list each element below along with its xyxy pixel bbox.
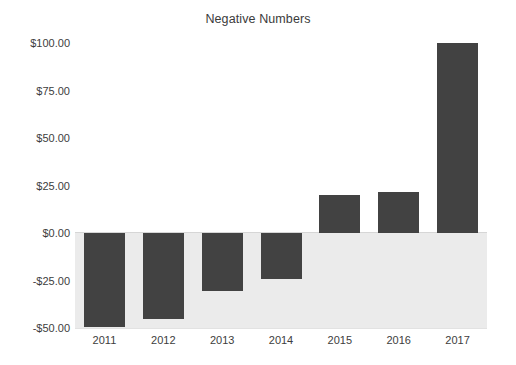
axis-baseline — [75, 328, 487, 329]
y-axis-tick-label: $100.00 — [2, 37, 70, 49]
x-axis-tick-label: 2012 — [151, 334, 175, 346]
y-axis-tick-label: -$25.00 — [2, 275, 70, 287]
bar-2017 — [437, 43, 478, 233]
bar-2014 — [261, 233, 302, 279]
y-axis-tick-label: $75.00 — [2, 85, 70, 97]
x-axis-tick-label: 2011 — [93, 334, 117, 346]
bar-2016 — [378, 192, 419, 233]
x-axis-tick-label: 2014 — [269, 334, 293, 346]
bar-2012 — [143, 233, 184, 319]
y-axis-tick-label: -$50.00 — [2, 322, 70, 334]
x-axis: 2011201220132014201520162017 — [75, 334, 487, 354]
x-axis-tick-label: 2016 — [386, 334, 410, 346]
bar-2015 — [319, 195, 360, 233]
x-axis-tick-label: 2013 — [210, 334, 234, 346]
x-axis-tick-label: 2017 — [445, 334, 469, 346]
bar-chart: Negative Numbers $100.00$75.00$50.00$25.… — [0, 0, 516, 365]
bar-2013 — [202, 233, 243, 291]
y-axis-tick-label: $25.00 — [2, 180, 70, 192]
chart-title: Negative Numbers — [0, 12, 516, 26]
x-axis-tick-label: 2015 — [328, 334, 352, 346]
y-axis-tick-label: $0.00 — [2, 227, 70, 239]
y-axis-tick-label: $50.00 — [2, 132, 70, 144]
y-axis: $100.00$75.00$50.00$25.00$0.00-$25.00-$5… — [0, 0, 70, 365]
plot-area — [75, 43, 487, 328]
bar-2011 — [84, 233, 125, 327]
